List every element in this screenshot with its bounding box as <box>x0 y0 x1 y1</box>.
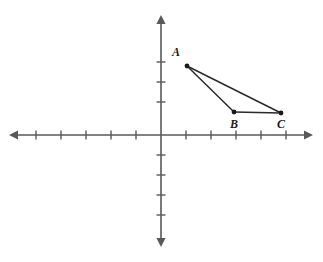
segment-BC <box>234 112 281 113</box>
vertex-dot-C <box>279 111 284 116</box>
vertex-dot-B <box>232 110 237 115</box>
coordinate-plane-svg: ABC <box>0 0 323 262</box>
vertex-label-C: C <box>277 117 286 131</box>
vertex-label-B: B <box>229 117 238 131</box>
vertex-label-A: A <box>171 45 180 59</box>
coordinate-plane-figure: ABC <box>0 0 323 262</box>
vertex-dot-A <box>185 64 190 69</box>
